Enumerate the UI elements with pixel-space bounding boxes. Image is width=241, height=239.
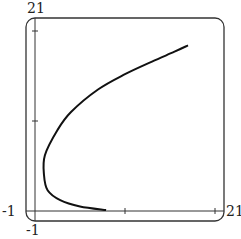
y-max-label: 21 (27, 1, 45, 15)
plot-area (0, 0, 241, 239)
plot-frame (26, 18, 224, 221)
curve-line (43, 45, 188, 210)
x-max-label: 21 (226, 204, 241, 218)
x-min-label: -1 (2, 204, 16, 218)
y-min-label: -1 (26, 223, 40, 237)
axis-ticks (32, 31, 215, 214)
